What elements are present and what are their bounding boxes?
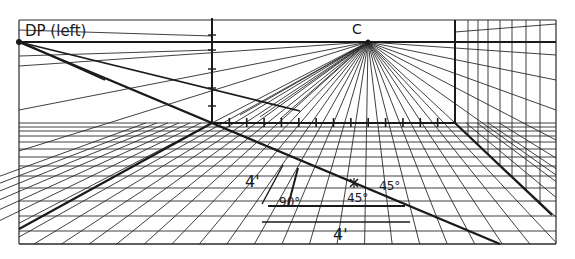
perspective-diagram: DP (left) C 4' 90° 45° 45° 4': [0, 0, 575, 259]
horizontal-dimension-label: 4': [333, 225, 348, 244]
vanishing-point-label: C: [352, 21, 362, 37]
right-angle-label: 90°: [279, 195, 300, 209]
grid-lines: [0, 20, 556, 244]
vertical-dimension-label: 4': [245, 172, 260, 191]
angle-45-right-label: 45°: [379, 179, 400, 193]
drawing-canvas: DP (left) C 4' 90° 45° 45° 4': [0, 0, 575, 259]
dp-label: DP (left): [25, 22, 86, 40]
angle-45-left-label: 45°: [347, 191, 368, 205]
